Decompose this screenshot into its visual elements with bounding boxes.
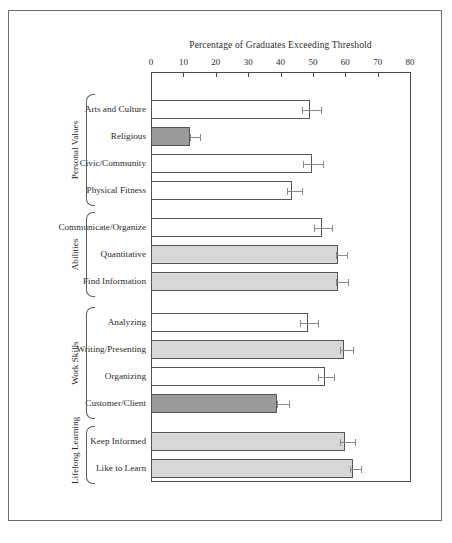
group-brace bbox=[86, 426, 95, 484]
plot-baseline bbox=[151, 481, 411, 482]
error-bar bbox=[287, 191, 302, 192]
group-brace bbox=[86, 212, 95, 297]
error-bar bbox=[350, 469, 361, 470]
error-bar bbox=[314, 228, 332, 229]
bar bbox=[151, 218, 322, 237]
bar bbox=[151, 127, 190, 146]
x-tick-80 bbox=[410, 72, 411, 77]
group-name: Personal Values bbox=[70, 94, 80, 206]
x-tick-60 bbox=[345, 72, 346, 77]
error-bar-cap-high bbox=[321, 107, 322, 114]
x-tick-label-20: 20 bbox=[201, 57, 231, 67]
error-bar bbox=[318, 377, 334, 378]
error-bar bbox=[340, 350, 353, 351]
group-name: Abilities bbox=[70, 212, 80, 297]
error-bar bbox=[303, 164, 322, 165]
error-bar-cap-low bbox=[340, 347, 341, 354]
bar bbox=[151, 340, 344, 359]
plot-right-rail bbox=[410, 72, 411, 481]
figure-root: Percentage of Graduates Exceeding Thresh… bbox=[0, 0, 452, 543]
x-tick-label-80: 80 bbox=[395, 57, 425, 67]
error-bar-cap-high bbox=[323, 161, 324, 168]
error-bar-cap-low bbox=[277, 401, 278, 408]
error-bar-cap-high bbox=[353, 347, 354, 354]
error-bar bbox=[302, 110, 321, 111]
error-bar-cap-low bbox=[300, 320, 301, 327]
error-bar bbox=[277, 404, 288, 405]
x-tick-label-10: 10 bbox=[168, 57, 198, 67]
x-tick-20 bbox=[216, 72, 217, 77]
bar bbox=[151, 432, 345, 451]
error-bar-cap-high bbox=[289, 401, 290, 408]
x-tick-label-50: 50 bbox=[298, 57, 328, 67]
bar bbox=[151, 272, 338, 291]
error-bar-cap-high bbox=[347, 252, 348, 259]
error-bar-cap-high bbox=[348, 279, 349, 286]
error-bar-cap-high bbox=[200, 134, 201, 141]
bar bbox=[151, 313, 308, 332]
error-bar-cap-low bbox=[314, 225, 315, 232]
error-bar-cap-low bbox=[303, 161, 304, 168]
bar bbox=[151, 100, 310, 119]
error-bar-cap-low bbox=[340, 439, 341, 446]
error-bar-cap-low bbox=[190, 134, 191, 141]
bar bbox=[151, 367, 325, 386]
bar bbox=[151, 245, 338, 264]
group-brace bbox=[86, 94, 95, 206]
x-tick-50 bbox=[313, 72, 314, 77]
x-tick-70 bbox=[378, 72, 379, 77]
x-tick-label-70: 70 bbox=[363, 57, 393, 67]
error-bar-cap-high bbox=[355, 439, 356, 446]
x-tick-label-60: 60 bbox=[330, 57, 360, 67]
bar bbox=[151, 394, 277, 413]
group-brace bbox=[86, 307, 95, 419]
error-bar-cap-low bbox=[318, 374, 319, 381]
error-bar-cap-low bbox=[336, 252, 337, 259]
error-bar bbox=[336, 255, 347, 256]
bar bbox=[151, 154, 312, 173]
bar bbox=[151, 181, 292, 200]
error-bar bbox=[336, 282, 349, 283]
error-bar bbox=[300, 323, 318, 324]
bar bbox=[151, 459, 353, 478]
error-bar-cap-high bbox=[334, 374, 335, 381]
x-tick-10 bbox=[183, 72, 184, 77]
group-name: Work Skills bbox=[70, 307, 80, 419]
chart-title: Percentage of Graduates Exceeding Thresh… bbox=[151, 40, 410, 50]
x-tick-40 bbox=[281, 72, 282, 77]
error-bar-cap-low bbox=[302, 107, 303, 114]
x-tick-30 bbox=[248, 72, 249, 77]
group-name: Lifelong Learning bbox=[70, 426, 80, 484]
error-bar bbox=[190, 137, 200, 138]
error-bar-cap-high bbox=[361, 466, 362, 473]
error-bar-cap-low bbox=[350, 466, 351, 473]
x-tick-label-40: 40 bbox=[266, 57, 296, 67]
error-bar-cap-high bbox=[302, 188, 303, 195]
error-bar-cap-low bbox=[287, 188, 288, 195]
x-tick-label-30: 30 bbox=[233, 57, 263, 67]
error-bar-cap-low bbox=[336, 279, 337, 286]
x-tick-0 bbox=[151, 72, 152, 77]
error-bar-cap-high bbox=[318, 320, 319, 327]
error-bar bbox=[340, 442, 355, 443]
error-bar-cap-high bbox=[332, 225, 333, 232]
